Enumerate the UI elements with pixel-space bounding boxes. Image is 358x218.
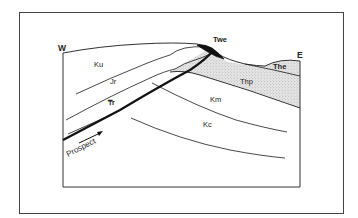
label-the: The (273, 62, 286, 71)
label-kc: Kc (203, 120, 212, 129)
label-tr: ₸r (107, 99, 115, 106)
label-west: W (58, 43, 67, 53)
label-thp: Thp (240, 77, 253, 86)
cross-section-figure: W E Ku Jr ₸r Twe The Thp Km Kc Prospect (0, 0, 358, 218)
label-prospect-fault: Prospect (65, 136, 98, 159)
label-east: E (297, 50, 303, 60)
label-ku: Ku (94, 60, 103, 69)
label-km: Km (210, 95, 221, 104)
label-twe: Twe (213, 35, 227, 44)
label-jr: Jr (110, 77, 117, 86)
outer-frame (20, 13, 344, 214)
unit-thp-area (170, 50, 300, 108)
